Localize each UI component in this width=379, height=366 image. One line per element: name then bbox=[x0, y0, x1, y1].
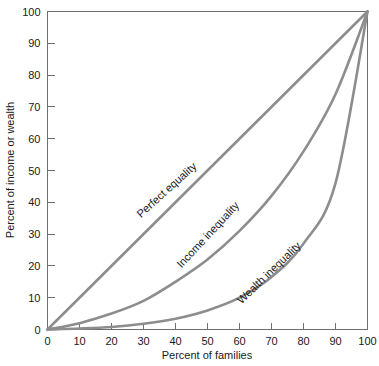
x-tick-label: 50 bbox=[201, 335, 213, 347]
chart-canvas: 0102030405060708090100 01020304050607080… bbox=[0, 0, 379, 366]
x-tick-label: 70 bbox=[265, 335, 277, 347]
x-tick-label: 10 bbox=[73, 335, 85, 347]
lorenz-curve-chart: 0102030405060708090100 01020304050607080… bbox=[0, 0, 379, 366]
x-axis-title: Percent of families bbox=[162, 349, 253, 361]
x-tick-label: 40 bbox=[169, 335, 181, 347]
y-tick-label: 0 bbox=[34, 324, 40, 336]
y-tick-label: 30 bbox=[28, 228, 40, 240]
x-tick-label: 90 bbox=[329, 335, 341, 347]
x-tick-label: 100 bbox=[358, 335, 376, 347]
y-tick-label: 40 bbox=[28, 196, 40, 208]
y-tick-label: 10 bbox=[28, 292, 40, 304]
y-tick-label: 50 bbox=[28, 165, 40, 177]
x-tick-label: 30 bbox=[137, 335, 149, 347]
x-tick-label: 60 bbox=[233, 335, 245, 347]
y-tick-label: 80 bbox=[28, 69, 40, 81]
y-tick-label: 70 bbox=[28, 101, 40, 113]
x-tick-label: 0 bbox=[44, 335, 50, 347]
y-tick-label: 90 bbox=[28, 37, 40, 49]
y-tick-label: 100 bbox=[22, 6, 40, 18]
y-tick-label: 60 bbox=[28, 133, 40, 145]
y-axis-title: Percent of income or wealth bbox=[4, 102, 16, 238]
y-tick-label: 20 bbox=[28, 260, 40, 272]
x-tick-label: 20 bbox=[105, 335, 117, 347]
x-tick-label: 80 bbox=[297, 335, 309, 347]
